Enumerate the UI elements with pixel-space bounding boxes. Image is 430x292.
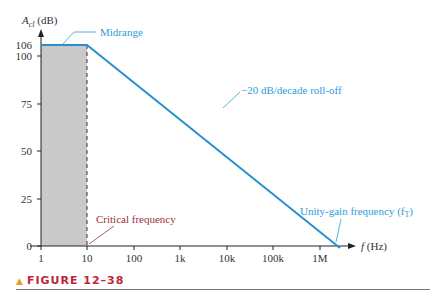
y-tick-100: 100 xyxy=(16,50,33,62)
x-tick-1k: 1k xyxy=(175,252,187,264)
unity-leader xyxy=(336,219,341,242)
midrange-shade xyxy=(41,45,87,246)
y-axis-label: Acl (dB) xyxy=(21,14,58,29)
bode-plot: 0 25 50 75 100 106 1 10 100 1k 10k 100k … xyxy=(0,0,430,292)
x-axis-label: f (Hz) xyxy=(361,240,387,253)
rolloff-label: −20 dB/decade roll-off xyxy=(241,84,342,96)
y-axis-arrow-icon xyxy=(38,29,44,37)
y-tick-75: 75 xyxy=(21,98,33,110)
midrange-label: Midrange xyxy=(100,26,143,38)
triangle-icon: ▲ xyxy=(16,276,24,286)
y-tick-106: 106 xyxy=(16,39,33,51)
rolloff-leader xyxy=(223,92,240,108)
x-tick-1M: 1M xyxy=(312,252,328,264)
y-ticks xyxy=(37,56,41,246)
x-tick-10k: 10k xyxy=(219,252,236,264)
x-ticks xyxy=(41,246,320,250)
x-tick-1: 1 xyxy=(38,252,44,264)
x-axis-arrow-icon xyxy=(348,243,356,249)
midrange-leader xyxy=(63,32,74,44)
x-tick-100: 100 xyxy=(126,252,143,264)
y-tick-50: 50 xyxy=(21,145,33,157)
critical-leader xyxy=(89,226,114,244)
critical-frequency-label: Critical frequency xyxy=(96,213,176,225)
unity-gain-label: Unity-gain frequency (fT) xyxy=(300,205,413,219)
figure-number: FIGURE 12–38 xyxy=(27,274,125,287)
figure-caption: ▲FIGURE 12–38 xyxy=(16,274,124,287)
x-tick-100k: 100k xyxy=(262,252,285,264)
x-tick-10: 10 xyxy=(82,252,94,264)
y-tick-25: 25 xyxy=(21,193,33,205)
caption-rule xyxy=(16,289,430,290)
y-tick-0: 0 xyxy=(27,240,33,252)
